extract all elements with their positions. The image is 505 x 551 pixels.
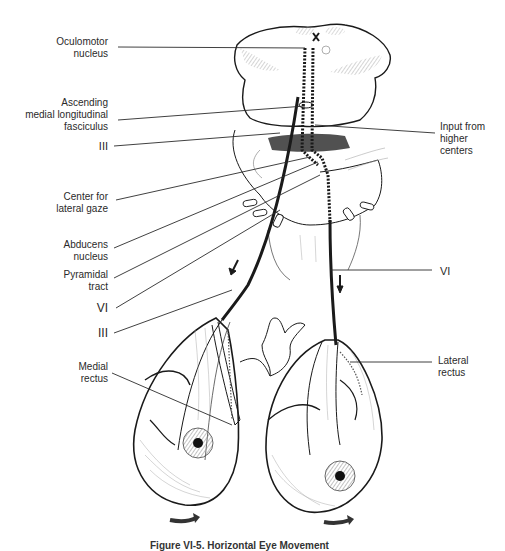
label-oculomotor-nucleus: Oculomotor nucleus (30, 36, 108, 60)
label-cn-iii-upper: III (70, 140, 108, 152)
nerve-vi-tract (330, 220, 336, 345)
label-abducens-nucleus: Abducens nucleus (30, 239, 108, 263)
label-pyramidal-tract: Pyramidal tract (30, 269, 108, 293)
label-medial-rectus: Medial rectus (40, 361, 108, 385)
label-cn-iii-lower: III (70, 327, 108, 339)
label-cn-vi-right: VI (440, 265, 480, 277)
label-center-lateral-gaze: Center for lateral gaze (30, 191, 108, 215)
label-cn-vi-left: VI (70, 302, 108, 314)
left-eye (134, 318, 240, 505)
label-ascending-mlf: Ascending medial longitudinal fasciculus (5, 97, 108, 133)
nerve-iii-tract (222, 97, 298, 320)
figure-caption: Figure VI-5. Horizontal Eye Movement (150, 540, 329, 551)
pons (233, 130, 388, 228)
label-lateral-rectus: Lateral rectus (438, 355, 498, 379)
rotation-arrow-left-eye (170, 513, 200, 523)
label-input-higher-centers: Input from higher centers (440, 121, 502, 157)
rotation-arrow-right-eye (324, 515, 354, 525)
